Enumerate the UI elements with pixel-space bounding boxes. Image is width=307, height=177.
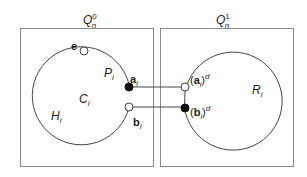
label-b-i: bi [133, 116, 142, 131]
right-subcube-box [161, 29, 294, 167]
label-b-i-d: (bi)d [190, 104, 211, 120]
hypercube-diagram: Q0n Q1n e Pi ai Ci Hi bi (ai)d Ri (bi)d [0, 0, 307, 177]
label-H-i: Hi [51, 109, 62, 125]
vertex-b-i [125, 103, 133, 111]
label-a-i-d: (ai)d [190, 72, 210, 88]
label-R-i: Ri [252, 83, 263, 99]
right-subcube-title: Q1n [216, 12, 230, 30]
label-P-i: Pi [104, 66, 114, 82]
right-cycle-arc [185, 52, 283, 150]
label-C-i: Ci [79, 92, 90, 108]
label-e: e [71, 40, 77, 52]
left-subcube-title: Q0n [83, 12, 97, 30]
vertex-b-i-d [181, 104, 189, 112]
vertex-e [80, 47, 88, 55]
vertex-a-i-d [181, 83, 189, 91]
